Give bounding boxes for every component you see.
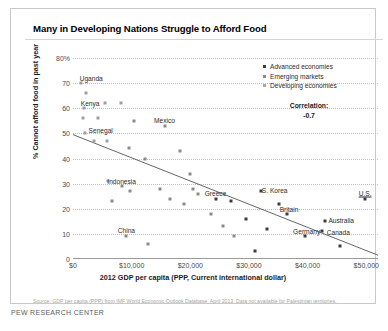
point-label: Greece — [205, 189, 227, 196]
x-tick-label: $20,000 — [178, 262, 203, 269]
pew-footer: PEW RESEARCH CENTER — [11, 309, 104, 316]
scatter-point — [221, 225, 224, 228]
scatter-point — [321, 230, 324, 233]
y-tick-label: 20 — [30, 205, 70, 212]
scatter-point — [143, 157, 146, 160]
x-tick-label: $10,000 — [119, 262, 144, 269]
scatter-point — [92, 139, 95, 142]
x-tick-label: $0 — [69, 262, 77, 269]
scatter-point — [83, 132, 86, 135]
legend-item: Emerging markets — [263, 73, 337, 80]
source-note: Source: GDP per capita (PPP) from IMF Wo… — [33, 298, 336, 304]
scatter-point — [286, 212, 289, 215]
point-label: Britain — [280, 205, 299, 212]
y-tick-label: 70 — [30, 80, 70, 87]
scatter-point — [103, 102, 106, 105]
scatter-point — [183, 202, 186, 205]
x-tick-label: $30,000 — [236, 262, 261, 269]
legend-swatch-icon — [263, 65, 266, 68]
scatter-point — [147, 242, 150, 245]
scatter-point — [133, 119, 136, 122]
legend-label: Developing economies — [270, 82, 337, 89]
chart-title: Many in Developing Nations Struggle to A… — [33, 23, 266, 34]
point-label: U.S. — [359, 189, 372, 196]
legend-swatch-icon — [263, 75, 266, 78]
point-label: Indonesia — [107, 178, 136, 185]
legend-label: Emerging markets — [270, 73, 324, 80]
point-label: Kenya — [81, 100, 100, 107]
point-label: China — [118, 227, 135, 234]
scatter-point — [120, 185, 123, 188]
scatter-point — [179, 149, 182, 152]
legend-item: Advanced economies — [263, 63, 337, 70]
scatter-point — [127, 147, 130, 150]
point-label: Senegal — [89, 127, 113, 134]
scatter-point — [83, 107, 86, 110]
scatter-point — [81, 117, 84, 120]
scatter-point — [128, 190, 131, 193]
point-label: Germany — [293, 228, 320, 235]
screenshot-root: Many in Developing Nations Struggle to A… — [0, 0, 388, 331]
legend: Advanced economiesEmerging marketsDevelo… — [263, 63, 337, 92]
correlation-value: -0.7 — [279, 111, 339, 121]
scatter-point — [96, 117, 99, 120]
scatter-point — [169, 197, 172, 200]
gridline — [73, 209, 378, 210]
point-label: Mexico — [154, 116, 175, 123]
y-tick-label: 0 — [30, 256, 70, 263]
point-label: Uganda — [80, 75, 103, 82]
scatter-point — [230, 200, 233, 203]
y-tick-label: 60 — [30, 105, 70, 112]
legend-swatch-icon — [263, 84, 266, 87]
y-tick-label: 50 — [30, 130, 70, 137]
y-tick-label: 40 — [30, 155, 70, 162]
legend-item: Developing economies — [263, 82, 337, 89]
chart-card: Many in Developing Nations Struggle to A… — [10, 8, 376, 304]
legend-label: Advanced economies — [270, 63, 333, 70]
x-axis-line — [73, 258, 378, 259]
scatter-point — [338, 245, 341, 248]
gridline — [73, 133, 378, 134]
y-tick-label: 80% — [30, 55, 70, 62]
scatter-point — [214, 197, 217, 200]
scatter-point — [209, 212, 212, 215]
point-label: Australia — [328, 217, 354, 224]
scatter-point — [245, 217, 248, 220]
scatter-point — [189, 172, 192, 175]
point-label: Canada — [327, 229, 350, 236]
x-tick-label: $40,000 — [295, 262, 320, 269]
scatter-point — [364, 197, 367, 200]
scatter-point — [253, 250, 256, 253]
scatter-point — [163, 124, 166, 127]
title-divider — [25, 39, 383, 40]
x-axis-label: 2012 GDP per capita (PPP, Current intern… — [11, 273, 375, 282]
scatter-point — [191, 187, 194, 190]
scatter-point — [233, 235, 236, 238]
scatter-point — [303, 235, 306, 238]
scatter-point — [111, 200, 114, 203]
correlation-label: Correlation: — [279, 101, 339, 111]
scatter-point — [120, 102, 123, 105]
gridline — [73, 58, 378, 59]
y-tick-label: 10 — [30, 230, 70, 237]
scatter-point — [80, 82, 83, 85]
y-tick-label: 30 — [30, 180, 70, 187]
scatter-point — [158, 187, 161, 190]
scatter-point — [125, 235, 128, 238]
scatter-point — [196, 192, 199, 195]
scatter-point — [85, 92, 88, 95]
correlation-annotation: Correlation: -0.7 — [279, 101, 339, 121]
scatter-point — [265, 227, 268, 230]
point-label: S. Korea — [262, 187, 288, 194]
gridline — [73, 159, 378, 160]
scatter-point — [324, 220, 327, 223]
scatter-point — [106, 139, 109, 142]
x-tick-label: $50,000 — [354, 262, 379, 269]
